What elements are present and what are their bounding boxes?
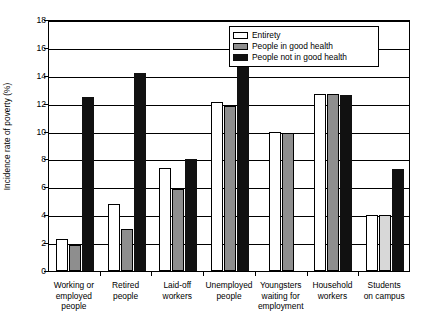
legend-item: Entirety	[233, 30, 374, 41]
bar-good	[282, 133, 294, 271]
bar-good	[379, 215, 391, 271]
y-tick-label: 16	[16, 44, 46, 53]
bar-notgood	[185, 159, 197, 271]
legend-item: People not in good health	[233, 52, 374, 63]
bar-notgood	[340, 95, 352, 271]
x-cat-label-line: people	[42, 301, 106, 312]
legend-label: People in good health	[252, 42, 333, 51]
bar-entirety	[159, 168, 171, 271]
x-tick-mark	[203, 272, 204, 276]
bar-entirety	[366, 215, 378, 271]
legend-swatch-entirety	[233, 32, 248, 39]
legend-swatch-notgood	[233, 54, 248, 61]
legend-swatch-good	[233, 43, 248, 50]
x-category-label: Studentson campus	[352, 280, 416, 301]
y-tick-label: 8	[16, 155, 46, 164]
bar-notgood	[392, 169, 404, 271]
x-tick-mark	[358, 272, 359, 276]
bar-entirety	[269, 132, 281, 271]
bar-group	[152, 21, 204, 271]
chart-legend: EntiretyPeople in good healthPeople not …	[229, 26, 379, 67]
bar-entirety	[211, 102, 223, 271]
y-tick-label: 0	[16, 267, 46, 276]
bar-good	[69, 245, 81, 271]
y-axis-title: Incidence rate of poverty (%)	[0, 0, 16, 272]
x-cat-label-line: employment	[249, 301, 313, 312]
bar-group	[101, 21, 153, 271]
legend-label: Entirety	[252, 31, 280, 40]
legend-label: People not in good health	[252, 53, 347, 62]
y-axis-title-text: Incidence rate of poverty (%)	[4, 82, 13, 190]
y-tick-label: 14	[16, 72, 46, 81]
x-cat-label-line: Students	[352, 280, 416, 291]
y-tick-label: 4	[16, 211, 46, 220]
y-tick-label: 10	[16, 128, 46, 137]
bar-good	[121, 229, 133, 271]
bar-good	[224, 106, 236, 271]
x-tick-mark	[307, 272, 308, 276]
bar-good	[172, 189, 184, 271]
bar-notgood	[134, 73, 146, 271]
poverty-incidence-bar-chart: Incidence rate of poverty (%) 1816141210…	[0, 0, 435, 330]
bar-entirety	[108, 204, 120, 271]
y-tick-label: 6	[16, 183, 46, 192]
y-tick-label: 12	[16, 100, 46, 109]
legend-item: People in good health	[233, 41, 374, 52]
bar-entirety	[314, 94, 326, 271]
x-tick-mark	[151, 272, 152, 276]
y-tick-label: 18	[16, 16, 46, 25]
bar-notgood	[237, 41, 249, 271]
bar-good	[327, 94, 339, 271]
bar-notgood	[82, 97, 94, 271]
bar-group	[49, 21, 101, 271]
y-tick-label: 2	[16, 239, 46, 248]
x-tick-mark	[255, 272, 256, 276]
bar-entirety	[56, 239, 68, 271]
x-cat-label-line: on campus	[352, 291, 416, 302]
x-tick-mark	[100, 272, 101, 276]
